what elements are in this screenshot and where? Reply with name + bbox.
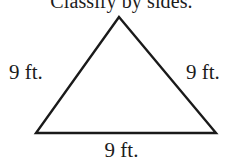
side-label-left: 9 ft. [9, 62, 43, 83]
side-label-right: 9 ft. [186, 62, 220, 83]
worksheet-figure: Classify by sides. 9 ft. 9 ft. 9 ft. [0, 0, 243, 165]
side-label-bottom: 9 ft. [0, 140, 243, 161]
